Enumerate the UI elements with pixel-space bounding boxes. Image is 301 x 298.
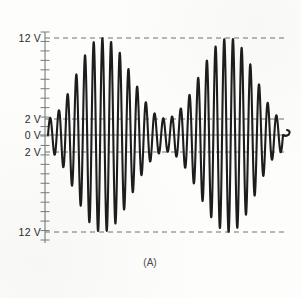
figure-caption: (A) — [143, 257, 156, 268]
y-label-minus12: 12 V — [19, 226, 41, 238]
y-label-plus12: 12 V — [19, 32, 41, 44]
waveform-plot: 12 V 2 V 0 V 2 V 12 V (A) — [0, 0, 301, 298]
y-axis-labels: 12 V 2 V 0 V 2 V 12 V — [19, 32, 41, 238]
y-label-plus2: 2 V — [25, 113, 41, 125]
y-axis — [41, 32, 50, 243]
y-label-zero: 0 V — [25, 129, 41, 141]
y-label-minus2: 2 V — [25, 146, 41, 158]
waveform-figure: 12 V 2 V 0 V 2 V 12 V (A) — [0, 0, 301, 298]
